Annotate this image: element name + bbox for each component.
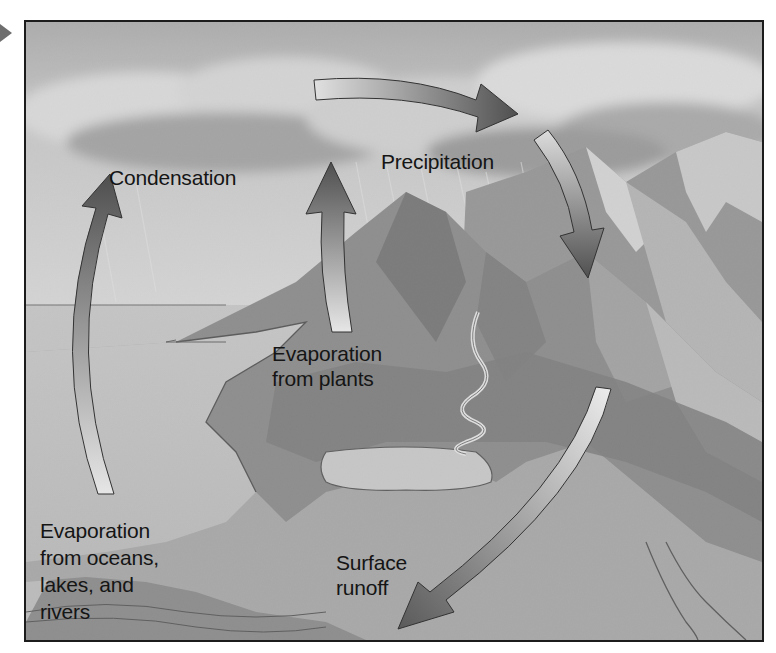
label-evaporation-from-water: Evaporation from oceans, lakes, and rive… <box>40 517 159 625</box>
label-precipitation: Precipitation <box>381 149 494 174</box>
label-surface-runoff: Surface runoff <box>336 550 407 600</box>
label-condensation: Condensation <box>109 165 236 190</box>
water-cycle-diagram: Condensation Precipitation Evaporation f… <box>24 20 764 642</box>
label-evaporation-from-plants: Evaporation from plants <box>272 341 382 391</box>
pointer-triangle-icon <box>0 24 12 42</box>
